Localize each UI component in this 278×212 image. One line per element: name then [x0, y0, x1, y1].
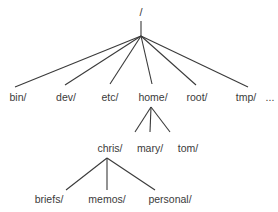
branch-line [15, 36, 141, 87]
directory-label-home: home/ [138, 91, 167, 103]
directory-label-chris: chris/ [97, 142, 122, 154]
directory-label-etc: etc/ [102, 91, 119, 103]
branch-line [66, 158, 107, 190]
directory-label-dev: dev/ [56, 91, 76, 103]
branch-line [110, 36, 141, 84]
branch-line [151, 107, 170, 132]
branch-line [65, 36, 141, 85]
directory-label-root: root/ [186, 91, 207, 103]
level1-branches: bin/dev/etc/home/root/tmp/ [10, 36, 257, 103]
directory-label-memos: memos/ [88, 193, 125, 205]
directory-tree: / bin/dev/etc/home/root/tmp/ ... chris/m… [0, 0, 278, 212]
chris-children-branches: briefs/memos/personal/ [35, 158, 192, 205]
home-children-branches: chris/mary/tom/ [97, 107, 198, 154]
more-ellipsis: ... [266, 91, 275, 103]
root-label: / [139, 6, 143, 18]
directory-label-tmp: tmp/ [236, 91, 257, 103]
branch-line [141, 36, 152, 84]
branch-line [135, 107, 151, 132]
branch-line [141, 36, 248, 87]
directory-label-tom: tom/ [178, 142, 199, 154]
directory-label-personal: personal/ [148, 193, 191, 205]
branch-line [141, 36, 196, 85]
directory-label-bin: bin/ [10, 91, 27, 103]
directory-label-mary: mary/ [137, 142, 163, 154]
branch-line [150, 107, 151, 132]
directory-label-briefs: briefs/ [35, 193, 64, 205]
branch-line [107, 158, 155, 190]
